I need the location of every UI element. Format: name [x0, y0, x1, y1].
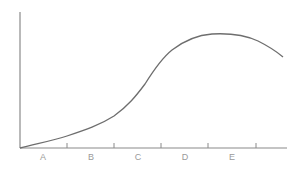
data-curve: [20, 34, 283, 148]
x-label-c: C: [135, 152, 142, 162]
x-labels: A B C D E: [40, 152, 235, 162]
x-label-b: B: [88, 152, 94, 162]
line-chart: A B C D E: [0, 0, 300, 169]
x-label-e: E: [229, 152, 235, 162]
x-label-a: A: [40, 152, 46, 162]
x-ticks: [67, 143, 256, 148]
x-label-d: D: [182, 152, 189, 162]
